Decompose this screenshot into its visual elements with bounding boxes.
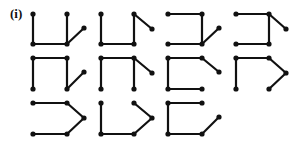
vertex-dot — [131, 131, 136, 136]
vertex-dot — [266, 55, 271, 60]
edge — [134, 14, 152, 29]
edge — [67, 118, 84, 134]
vertex-dot — [98, 100, 103, 105]
vertex-dot — [131, 41, 136, 46]
edge — [269, 58, 286, 73]
vertex-dot — [98, 86, 103, 91]
edge — [67, 72, 84, 89]
edge — [67, 103, 84, 118]
vertex-dot — [233, 86, 238, 91]
vertex-dot — [64, 131, 69, 136]
vertex-dot — [131, 100, 136, 105]
vertex-dot — [283, 70, 288, 75]
graph-figure-r3c1 — [30, 100, 86, 136]
graph-figure-r2c3 — [165, 55, 221, 91]
vertex-dot — [30, 131, 35, 136]
vertex-dot — [81, 69, 86, 74]
edge — [202, 117, 219, 134]
vertex-dot — [98, 131, 103, 136]
vertex-dot — [98, 41, 103, 46]
vertex-dot — [64, 11, 69, 16]
vertex-dot — [233, 11, 238, 16]
graph-figure-r2c1 — [30, 55, 86, 91]
graph-figure-r1c2 — [98, 11, 154, 46]
vertex-dot — [165, 100, 170, 105]
graph-figure-r3c2 — [98, 100, 154, 136]
vertex-dot — [81, 25, 86, 30]
graph-figure-r3c3 — [165, 100, 221, 136]
graph-figure-r2c4 — [233, 55, 288, 91]
edge — [134, 103, 152, 118]
vertex-dot — [165, 11, 170, 16]
vertex-dot — [165, 131, 170, 136]
vertex-dot — [64, 86, 69, 91]
graph-figure-r1c4 — [233, 11, 288, 46]
edge — [134, 118, 152, 134]
vertex-dot — [30, 86, 35, 91]
vertex-dot — [199, 131, 204, 136]
vertex-dot — [233, 41, 238, 46]
vertex-dot — [266, 41, 271, 46]
vertex-dot — [64, 100, 69, 105]
vertex-dot — [199, 100, 204, 105]
vertex-dot — [64, 41, 69, 46]
edge — [269, 14, 286, 29]
graph-figures — [0, 0, 300, 147]
vertex-dot — [199, 55, 204, 60]
vertex-dot — [199, 11, 204, 16]
vertex-dot — [149, 26, 154, 31]
vertex-dot — [98, 55, 103, 60]
vertex-dot — [30, 41, 35, 46]
vertex-dot — [98, 11, 103, 16]
edge — [67, 28, 84, 44]
vertex-dot — [30, 100, 35, 105]
vertex-dot — [165, 55, 170, 60]
vertex-dot — [30, 55, 35, 60]
vertex-dot — [199, 41, 204, 46]
vertex-dot — [216, 114, 221, 119]
vertex-dot — [149, 115, 154, 120]
vertex-dot — [64, 55, 69, 60]
vertex-dot — [131, 11, 136, 16]
vertex-dot — [30, 11, 35, 16]
graph-figure-r1c3 — [165, 11, 221, 46]
edge — [202, 28, 219, 44]
vertex-dot — [165, 86, 170, 91]
vertex-dot — [149, 70, 154, 75]
graph-figure-r1c1 — [30, 11, 86, 46]
edge — [202, 58, 219, 72]
graph-figure-r2c2 — [98, 55, 154, 91]
vertex-dot — [199, 86, 204, 91]
vertex-dot — [233, 55, 238, 60]
vertex-dot — [216, 25, 221, 30]
vertex-dot — [165, 41, 170, 46]
vertex-dot — [283, 26, 288, 31]
vertex-dot — [131, 55, 136, 60]
vertex-dot — [266, 86, 271, 91]
vertex-dot — [216, 69, 221, 74]
edge — [269, 73, 286, 89]
vertex-dot — [131, 86, 136, 91]
edge — [134, 58, 152, 73]
vertex-dot — [81, 115, 86, 120]
vertex-dot — [266, 11, 271, 16]
